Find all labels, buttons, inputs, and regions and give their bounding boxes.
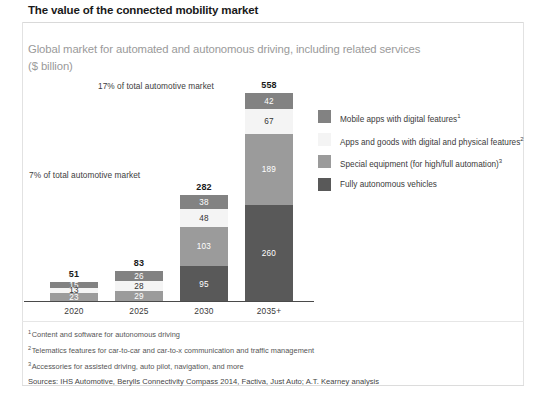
footnote-divider: [22, 321, 524, 322]
legend-item-label: Apps and goods with digital and physical…: [340, 133, 524, 149]
bar-segment-value: 28: [115, 281, 163, 291]
footnote-1: 1Content and software for autonomous dri…: [28, 326, 508, 342]
frame-line-left: [22, 22, 23, 386]
bar-total-label: 51: [50, 269, 98, 279]
bar-segment-value: 26: [115, 271, 163, 281]
chart-subtitle-line-1: Global market for automated and autonomo…: [28, 43, 420, 55]
legend-item-mobile-apps[interactable]: Mobile apps with digital features1: [318, 110, 528, 124]
legend-item-label: Special equipment (for high/full automat…: [340, 155, 502, 171]
frame-line-top: [22, 22, 524, 23]
legend-footnote-marker: 2: [520, 136, 523, 142]
bar-2035plus[interactable]: 4267189260: [245, 93, 293, 302]
chart-legend: Mobile apps with digital features1Apps a…: [318, 110, 528, 200]
legend-item-special-equipment[interactable]: Special equipment (for high/full automat…: [318, 155, 528, 169]
bar-total-label: 558: [245, 80, 293, 90]
footnote-2: 2Telematics features for car-to-car and …: [28, 342, 508, 358]
bar-segment-value: 260: [245, 205, 293, 302]
legend-item-label: Fully autonomous vehicles: [340, 178, 437, 191]
chart-subtitle-unit: ($ billion): [28, 58, 420, 75]
footnote-text: Telematics features for car-to-car and c…: [32, 347, 315, 356]
bar-2020[interactable]: 151323: [50, 282, 98, 302]
bar-segment-value: 48: [180, 209, 228, 227]
x-axis-label-2035plus: 2035+: [239, 306, 299, 316]
frame-line-right: [523, 22, 524, 386]
sources-line: Sources: IHS Automotive, Berylls Connect…: [28, 375, 508, 388]
legend-item-label: Mobile apps with digital features1: [340, 110, 461, 126]
chart-x-axis-line: [24, 301, 314, 302]
bar-segment-value: 38: [180, 195, 228, 209]
legend-item-fully-autonomous[interactable]: Fully autonomous vehicles: [318, 178, 528, 192]
slide-canvas: The value of the connected mobility mark…: [0, 0, 534, 397]
page-title: The value of the connected mobility mark…: [28, 4, 258, 16]
bar-segment-value: 103: [180, 227, 228, 266]
legend-swatch-icon: [318, 133, 331, 146]
bar-segment-value: 42: [245, 93, 293, 109]
legend-swatch-icon: [318, 178, 331, 191]
footnote-text: Accessories for assisted driving, auto p…: [32, 363, 244, 372]
legend-swatch-icon: [318, 155, 331, 168]
bar-total-label: 282: [180, 182, 228, 192]
bar-2030[interactable]: 384810395: [180, 195, 228, 302]
legend-footnote-marker: 1: [457, 113, 460, 119]
chart-subtitle: Global market for automated and autonomo…: [28, 41, 420, 75]
footnote-3: 3Accessories for assisted driving, auto …: [28, 358, 508, 374]
bar-segment-value: 95: [180, 266, 228, 302]
footnote-text: Content and software for autonomous driv…: [32, 330, 180, 339]
bar-total-label: 83: [115, 258, 163, 268]
legend-item-apps-and-goods[interactable]: Apps and goods with digital and physical…: [318, 133, 528, 147]
x-axis-label-2020: 2020: [44, 306, 104, 316]
x-axis-label-2030: 2030: [174, 306, 234, 316]
x-axis-label-2025: 2025: [109, 306, 169, 316]
annotation-upper: 17% of total automotive market: [98, 81, 214, 91]
footnotes-block: 1Content and software for autonomous dri…: [28, 326, 508, 388]
legend-footnote-marker: 3: [499, 158, 502, 164]
bar-segment-value: 189: [245, 134, 293, 205]
bar-2025[interactable]: 262829: [115, 271, 163, 302]
legend-swatch-icon: [318, 110, 331, 123]
bar-segment-value: 67: [245, 109, 293, 134]
